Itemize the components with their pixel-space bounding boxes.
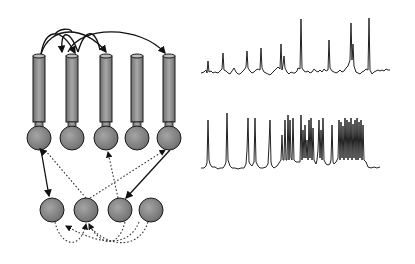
pyramidal-cells — [27, 54, 181, 150]
pyramidal-cell-5 — [157, 54, 181, 150]
trace-top — [201, 18, 390, 75]
inhibitory-connections — [45, 150, 165, 243]
recurrent-connections — [41, 29, 165, 54]
pyramidal-cell-2 — [60, 54, 84, 150]
pyramidal-cell-3 — [94, 54, 118, 150]
interneuron-3 — [108, 198, 132, 222]
interneurons — [40, 198, 163, 222]
pyramidal-cell-4 — [125, 54, 149, 150]
network-diagram — [0, 0, 415, 264]
interneuron-2 — [74, 198, 98, 222]
trace-bottom — [201, 113, 380, 169]
interneuron-1 — [40, 198, 64, 222]
pyramidal-cell-1 — [27, 54, 51, 150]
excitatory-connections — [40, 149, 170, 198]
interneuron-4 — [139, 198, 163, 222]
